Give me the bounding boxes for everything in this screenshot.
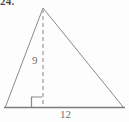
base-measure-label: 12	[60, 109, 71, 120]
triangle-right-side	[43, 8, 124, 108]
altitude-measure-label: 9	[32, 55, 38, 66]
right-angle-marker-icon	[32, 97, 43, 107]
triangle-diagram-svg	[0, 0, 129, 122]
geometry-figure: 24. 9 12	[0, 0, 129, 122]
problem-number-label: 24.	[0, 0, 14, 7]
